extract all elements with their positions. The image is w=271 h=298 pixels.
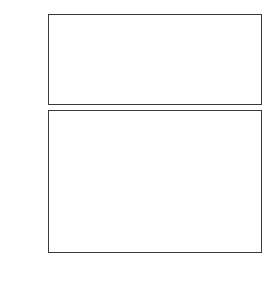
panel-superobesity: [48, 14, 262, 105]
panel-obesity: [48, 110, 262, 253]
figure: [0, 0, 271, 298]
x-axis-ticks: [48, 253, 262, 258]
panel-frame-top: [48, 14, 262, 105]
panel-frame-bottom: [48, 110, 262, 253]
